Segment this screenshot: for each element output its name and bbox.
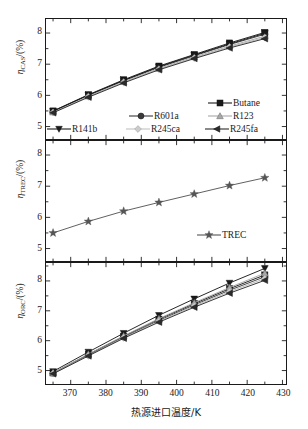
legend-label: TREC bbox=[222, 230, 246, 240]
panel-orc bbox=[45, 262, 287, 385]
legend-label: Butane bbox=[233, 98, 260, 108]
legend-label: R123 bbox=[233, 111, 254, 121]
legend-cas: ButaneR601aR123R141bR245caR245fa bbox=[128, 96, 286, 135]
y-tick-label: 5 bbox=[26, 122, 42, 132]
x-tick-label: 370 bbox=[63, 388, 77, 398]
y-tick-label: 8 bbox=[26, 27, 42, 37]
legend-marker-star-icon bbox=[196, 229, 222, 241]
legend-item-R601a: R601a bbox=[128, 110, 207, 122]
legend-marker-triangle-down-icon bbox=[46, 123, 72, 135]
x-tick-label: 390 bbox=[134, 388, 148, 398]
plot-area-orc bbox=[46, 263, 286, 384]
figure: 5678 ηCAS/(%) ButaneR601aR123R141bR245ca… bbox=[0, 0, 308, 429]
legend-spacer bbox=[128, 98, 207, 108]
legend-marker-triangle-left-icon bbox=[204, 123, 230, 135]
y-tick-label: 7 bbox=[26, 181, 42, 191]
panel-trec bbox=[45, 140, 287, 262]
legend-label: R245ca bbox=[151, 124, 180, 134]
series-TREC bbox=[49, 173, 269, 236]
legend-trec: TREC bbox=[196, 228, 286, 241]
legend-item-R123: R123 bbox=[207, 110, 286, 122]
y-axis-ticklabels-cas: 5678 bbox=[22, 18, 42, 140]
x-tick-label: 410 bbox=[205, 388, 219, 398]
y-tick-label: 8 bbox=[26, 149, 42, 159]
x-axis-title: 热源进口温度/K bbox=[45, 404, 287, 419]
legend-marker-circle-icon bbox=[128, 110, 154, 122]
x-axis-ticklabels: 370380390400410420430 bbox=[45, 388, 287, 402]
legend-marker-square-icon bbox=[207, 97, 233, 109]
legend-label: R245fa bbox=[230, 124, 258, 134]
y-axis-title-symbol-trec: η bbox=[15, 194, 25, 199]
legend-marker-diamond-icon bbox=[125, 123, 151, 135]
y-tick-label: 6 bbox=[26, 213, 42, 223]
legend-row: Butane bbox=[128, 96, 286, 109]
y-tick-label: 5 bbox=[26, 244, 42, 254]
plot-area-trec bbox=[46, 141, 286, 261]
y-axis-title-cas: ηCAS/(%) bbox=[15, 12, 25, 102]
x-tick-label: 420 bbox=[241, 388, 255, 398]
y-axis-title-unit-trec: /(%) bbox=[15, 160, 25, 177]
y-tick-label: 6 bbox=[26, 91, 42, 101]
x-tick-label: 430 bbox=[276, 388, 290, 398]
series-R245fa bbox=[50, 277, 268, 377]
y-axis-ticklabels-orc: 5678 bbox=[22, 262, 42, 385]
legend-item-R245fa: R245fa bbox=[204, 123, 283, 135]
y-axis-title-symbol-orc: η bbox=[15, 314, 25, 319]
y-axis-title-trec: ηTREC/(%) bbox=[15, 134, 25, 224]
legend-item-R141b: R141b bbox=[46, 123, 125, 135]
y-tick-label: 6 bbox=[26, 336, 42, 346]
x-tick-label: 400 bbox=[170, 388, 184, 398]
y-axis-title-unit-cas: /(%) bbox=[15, 40, 25, 57]
legend-label: R141b bbox=[72, 124, 97, 134]
series-R245ca bbox=[50, 275, 269, 377]
x-tick-label: 380 bbox=[98, 388, 112, 398]
legend-row: R141bR245caR245fa bbox=[46, 122, 286, 135]
y-tick-label: 8 bbox=[26, 275, 42, 285]
y-axis-title-orc: ηORC/(%) bbox=[15, 256, 25, 346]
y-axis-title-subscript-cas: CAS bbox=[19, 57, 26, 70]
legend-row: R601aR123 bbox=[128, 109, 286, 122]
legend-item-TREC: TREC bbox=[196, 228, 286, 241]
y-axis-title-subscript-trec: TREC bbox=[19, 177, 26, 194]
legend-item-R245ca: R245ca bbox=[125, 123, 204, 135]
legend-item-Butane: Butane bbox=[207, 97, 286, 109]
y-axis-title-symbol-cas: η bbox=[15, 70, 25, 75]
y-axis-title-subscript-orc: ORC bbox=[19, 300, 26, 314]
y-axis-title-unit-orc: /(%) bbox=[15, 283, 25, 300]
y-tick-label: 7 bbox=[26, 306, 42, 316]
legend-label: R601a bbox=[154, 111, 179, 121]
y-tick-label: 5 bbox=[26, 366, 42, 376]
y-tick-label: 7 bbox=[26, 59, 42, 69]
y-axis-ticklabels-trec: 5678 bbox=[22, 140, 42, 262]
legend-marker-triangle-up-icon bbox=[207, 110, 233, 122]
